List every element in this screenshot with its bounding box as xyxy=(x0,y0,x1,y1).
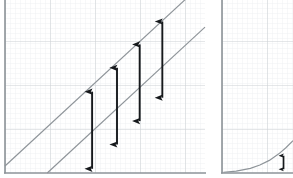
left-major-gridlines xyxy=(5,0,205,173)
figure-container xyxy=(0,0,293,178)
left-panel-svg xyxy=(0,0,208,178)
right-major-gridlines xyxy=(222,0,293,173)
right-graph-panel xyxy=(219,0,293,178)
left-graph-panel xyxy=(0,0,208,178)
right-panel-svg xyxy=(219,0,293,178)
